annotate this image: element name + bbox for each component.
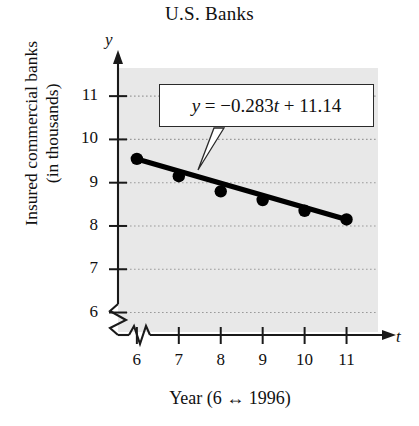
equation-slope: −0.283	[220, 95, 273, 116]
y-tick-label: 8	[72, 215, 98, 235]
equation-text: y = −0.283t + 11.14	[192, 95, 342, 117]
x-tick-label: 10	[290, 350, 320, 370]
data-point-marker	[298, 205, 310, 217]
data-point-marker	[131, 153, 143, 165]
x-tick-label: 7	[164, 350, 194, 370]
equation-intercept: 11.14	[299, 95, 341, 116]
data-point-marker	[215, 185, 227, 197]
y-tick-label: 11	[72, 85, 98, 105]
data-point-marker	[340, 213, 352, 225]
y-tick-label: 6	[72, 302, 98, 322]
y-tick-label: 7	[72, 258, 98, 278]
equation-equals: =	[205, 95, 216, 116]
x-tick-label: 11	[332, 350, 362, 370]
y-tick-label: 9	[72, 172, 98, 192]
y-axis-arrowhead	[113, 50, 123, 64]
x-axis-arrowhead	[382, 330, 396, 340]
x-tick-label: 9	[248, 350, 278, 370]
data-point-marker	[256, 194, 268, 206]
x-tick-label: 8	[206, 350, 236, 370]
equation-plus: +	[284, 95, 295, 116]
equation-variable: t	[274, 95, 279, 116]
x-tick-label: 6	[122, 350, 152, 370]
equation-callout-box: y = −0.283t + 11.14	[159, 84, 374, 127]
data-point-marker	[173, 170, 185, 182]
y-tick-label: 10	[72, 128, 98, 148]
chart-figure: U.S. Banks Insured commercial banks (in …	[0, 0, 419, 426]
equation-lhs: y	[192, 95, 200, 116]
